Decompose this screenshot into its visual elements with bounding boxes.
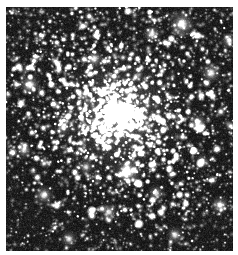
globular-cluster-image — [6, 7, 233, 251]
page-root: Globular star cluster: thousands of whit… — [0, 0, 238, 255]
star-field-canvas — [6, 7, 233, 251]
